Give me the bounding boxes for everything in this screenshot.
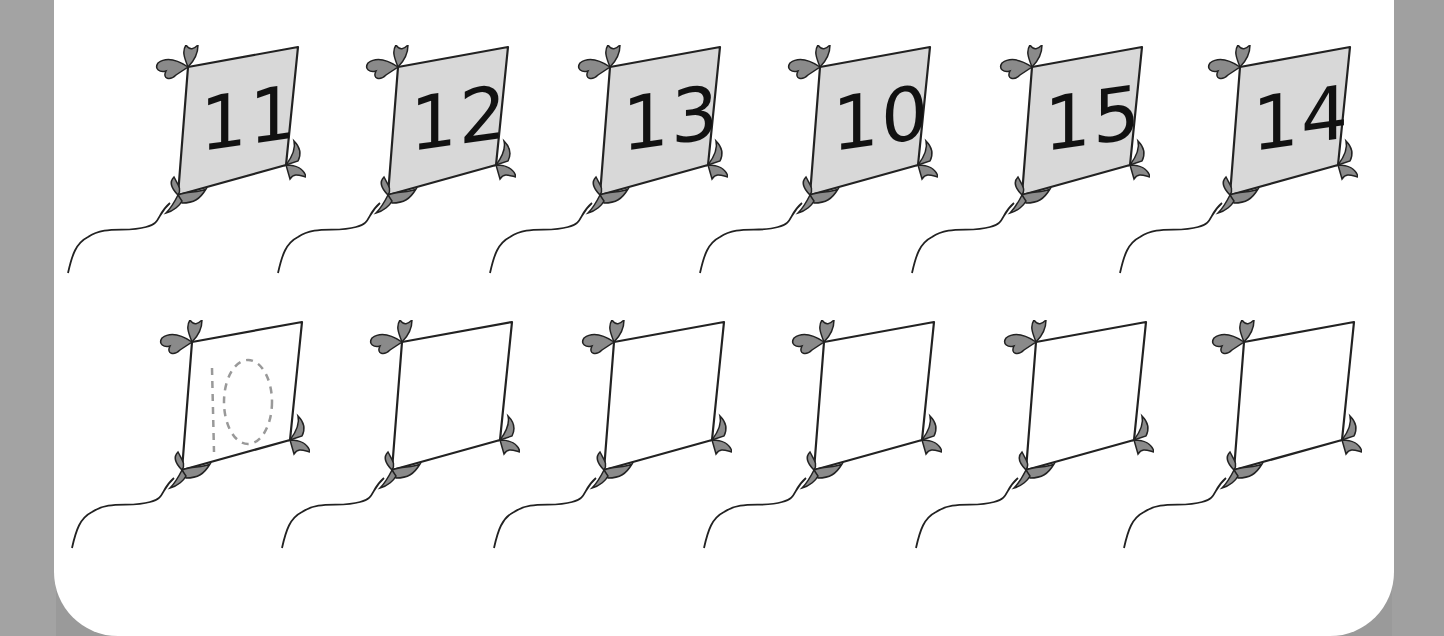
kite-top-2: 12 (276, 45, 516, 285)
kite-top-5: 15 (910, 45, 1150, 285)
kite-blank-2[interactable] (280, 320, 520, 560)
page-frame-left (0, 0, 56, 636)
kite-blank-3[interactable] (492, 320, 732, 560)
kite-trace-10 (70, 320, 310, 560)
kite-blank-6[interactable] (1122, 320, 1362, 560)
kite-top-6: 14 (1118, 45, 1358, 285)
kite-top-3: 13 (488, 45, 728, 285)
kite-blank-4[interactable] (702, 320, 942, 560)
kite-blank-5[interactable] (914, 320, 1154, 560)
kite-top-4: 10 (698, 45, 938, 285)
kite-top-1: 11 (66, 45, 306, 285)
page-frame-right (1392, 0, 1444, 636)
kite-number: 14 (1252, 68, 1350, 168)
